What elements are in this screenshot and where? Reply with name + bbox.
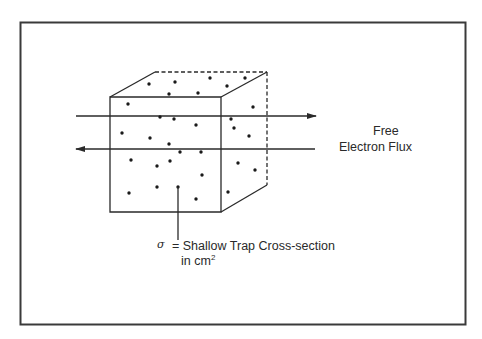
trap-dot	[167, 142, 170, 145]
trap-dot	[232, 126, 235, 129]
cube-edge	[221, 185, 267, 212]
trap-dot	[196, 91, 199, 94]
flux-label-line2: Electron Flux	[339, 140, 412, 154]
trap-dot	[178, 150, 181, 153]
trap-dot	[243, 76, 246, 79]
trap-dot	[127, 191, 130, 194]
units-exponent: 2	[211, 253, 215, 262]
electron-flux-arrows	[76, 116, 316, 149]
trap-dot	[155, 185, 158, 188]
trap-dot	[226, 190, 229, 193]
trap-dot	[147, 82, 150, 85]
cube-edge	[221, 72, 267, 97]
trap-dot	[155, 164, 158, 167]
trap-dot	[168, 159, 171, 162]
sigma-symbol: σ	[157, 238, 165, 252]
flux-label-line1: Free	[373, 124, 399, 138]
trap-dot	[251, 105, 254, 108]
trap-dot	[173, 80, 176, 83]
trap-dot	[167, 92, 170, 95]
trap-dot	[208, 76, 211, 79]
units-text: in cm	[181, 254, 211, 268]
trap-dot	[194, 197, 197, 200]
shallow-traps	[120, 76, 256, 200]
trap-dot	[194, 123, 197, 126]
trap-dot	[148, 136, 151, 139]
trap-dot	[158, 115, 161, 118]
trap-dot	[253, 168, 256, 171]
trap-dot	[247, 134, 250, 137]
sigma-definition-line2: in cm2	[181, 254, 215, 268]
trap-dot	[172, 117, 175, 120]
cube-front-face	[110, 97, 221, 212]
figure-frame	[21, 23, 466, 325]
sigma-definition-line1: = Shallow Trap Cross-section	[172, 239, 335, 253]
trap-dot	[236, 161, 239, 164]
trap-dot	[129, 158, 132, 161]
diagram-canvas	[0, 0, 482, 339]
trap-dot	[120, 131, 123, 134]
cube	[110, 72, 267, 212]
trap-dot	[126, 102, 129, 105]
trap-dot	[199, 150, 202, 153]
trap-dot	[229, 117, 232, 120]
trap-dot	[200, 173, 203, 176]
trap-dot	[225, 84, 228, 87]
